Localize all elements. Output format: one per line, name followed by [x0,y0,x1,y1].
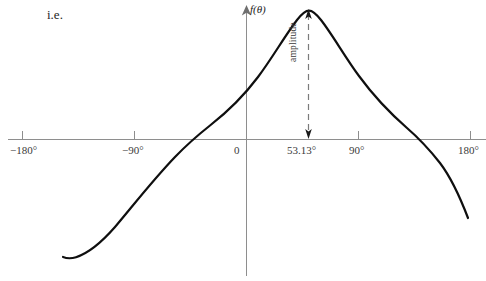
y-axis-label: f(θ) [250,4,266,15]
x-tick-label-53-13: 53.13° [287,145,316,156]
sinusoid-curve [63,11,468,259]
x-tick-label-minus-180: −180° [10,145,37,156]
x-tick-label-minus-90: −90° [122,145,144,156]
plot-svg [0,0,486,281]
prefix-note: i.e. [47,8,63,21]
x-tick-label-90: 90° [349,145,364,156]
amplitude-down-arrowhead [305,129,312,139]
figure-canvas: i.e. f(θ) −180° −90° 0 53.13° 90° 180° a… [0,0,486,281]
x-tick-label-180: 180° [458,145,479,156]
x-tick-label-zero: 0 [234,145,240,156]
amplitude-annotation-label: amplitude [289,22,299,62]
